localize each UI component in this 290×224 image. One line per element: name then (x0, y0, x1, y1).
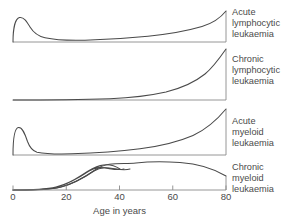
panel4-label-line1: Chronic (232, 162, 264, 172)
panel2-label-line2: lymphocytic (232, 65, 280, 75)
panel4-label-line3: leukaemia (232, 184, 275, 194)
panel-chronic-lymphocytic (13, 49, 226, 100)
panel1-curve (13, 11, 226, 42)
panel-acute-myeloid (13, 109, 226, 155)
panel-acute-lymphocytic (13, 11, 226, 42)
panel3-label-line1: Acute (232, 116, 256, 126)
x-axis-title: Age in years (93, 205, 146, 216)
x-tick-label-80: 80 (221, 191, 232, 202)
panel2-label: Chronic lymphocytic leukaemia (232, 54, 280, 86)
incidence-chart-svg: Acute lymphocytic leukaemia Chronic lymp… (0, 0, 290, 224)
panel2-curve (13, 49, 226, 100)
panel3-curve (13, 109, 226, 155)
panel3-label-line2: myeloid (232, 127, 264, 137)
panel4-label-line2: myeloid (232, 173, 264, 183)
panel1-label-line3: leukaemia (232, 29, 275, 39)
panel1-label-line1: Acute (232, 7, 256, 17)
panel4-curve-main (13, 168, 130, 190)
panel4-label: Chronic myeloid leukaemia (232, 162, 275, 194)
leukaemia-incidence-figure: Acute lymphocytic leukaemia Chronic lymp… (0, 0, 290, 224)
x-tick-label-20: 20 (61, 191, 72, 202)
x-tick-label-0: 0 (10, 191, 15, 202)
panel2-label-line1: Chronic (232, 54, 264, 64)
panel1-label: Acute lymphocytic leukaemia (232, 7, 280, 39)
x-tick-label-60: 60 (167, 191, 178, 202)
panel3-label: Acute myeloid leukaemia (232, 116, 275, 148)
panel1-label-line2: lymphocytic (232, 18, 280, 28)
panel3-label-line3: leukaemia (232, 138, 275, 148)
x-axis: 0 20 40 60 80 Age in years (10, 186, 231, 217)
panel4-curve (13, 165, 124, 190)
panel2-label-line3: leukaemia (232, 76, 275, 86)
x-tick-label-40: 40 (114, 191, 125, 202)
